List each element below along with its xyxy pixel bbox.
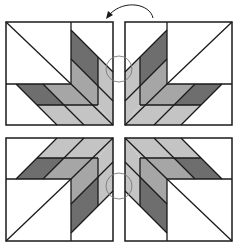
rotation-arrow-icon bbox=[110, 5, 153, 18]
quilt-block-top-left bbox=[6, 22, 113, 125]
quilt-block-top-right bbox=[125, 22, 232, 125]
quilt-diagram bbox=[0, 0, 238, 248]
quilt-block-bottom-right bbox=[125, 138, 232, 241]
quilt-blocks bbox=[6, 22, 232, 241]
quilt-block-bottom-left bbox=[6, 138, 113, 241]
